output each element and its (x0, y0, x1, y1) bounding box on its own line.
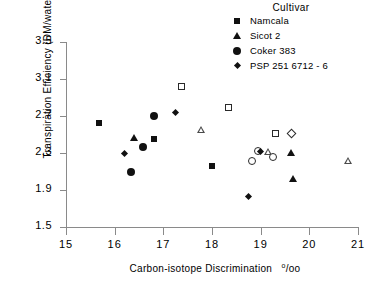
x-tick-label: 16 (95, 238, 135, 250)
x-tick (115, 228, 116, 235)
plot-area (66, 42, 358, 227)
x-tick-label: 21 (338, 238, 376, 250)
data-point-circle-open (269, 153, 277, 161)
x-tick-label: 18 (192, 238, 232, 250)
data-point-circle-filled (150, 112, 158, 120)
x-axis-title-text: Carbon-isotope Discrimination (130, 263, 273, 274)
y-tick-label: 1.5 (18, 219, 52, 231)
x-tick-label: 17 (143, 238, 183, 250)
data-point-circle-filled (127, 168, 135, 176)
data-point-square-open (225, 104, 232, 111)
legend-item-sicot2: Sicot 2 (226, 28, 374, 43)
x-tick-label: 19 (241, 238, 281, 250)
legend-label: Namcala (250, 15, 289, 26)
data-point-triangle-open (197, 126, 205, 133)
x-tick (261, 228, 262, 235)
legend-label: Sicot 2 (250, 30, 280, 41)
legend-title: Cultivar (226, 2, 356, 13)
filled-triangle-icon (226, 30, 250, 42)
data-point-square-filled (96, 120, 102, 126)
data-point-triangle-open (344, 157, 352, 164)
data-point-square-filled (151, 136, 157, 142)
y-tick-label: 1.9 (18, 182, 52, 194)
x-tick (358, 228, 359, 235)
x-tick-label: 15 (46, 238, 86, 250)
x-axis-title: Carbon-isotope Discrimination o/oo (70, 262, 360, 274)
x-tick (212, 228, 213, 235)
legend-item-namcala: Namcala (226, 13, 374, 28)
data-point-triangle-filled (287, 149, 295, 156)
data-point-triangle-filled (130, 134, 138, 141)
data-point-square-open (272, 130, 279, 137)
scatter-chart: Cultivar Namcala Sicot 2 Coker 383 PSP 2… (0, 0, 376, 284)
data-point-square-open (178, 83, 185, 90)
y-axis-title: Transpiration Efficiency (DM/water, g/kg… (42, 0, 53, 159)
x-tick (66, 228, 67, 235)
permil-unit: o/oo (275, 263, 300, 274)
data-point-triangle-filled (289, 175, 297, 182)
data-point-square-filled (209, 163, 215, 169)
x-tick (163, 228, 164, 235)
x-tick (309, 228, 310, 235)
filled-square-icon (226, 15, 250, 27)
x-tick-label: 20 (289, 238, 329, 250)
